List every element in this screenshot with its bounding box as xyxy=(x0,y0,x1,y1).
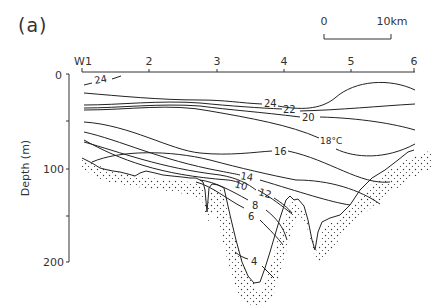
scale-bar xyxy=(324,34,391,39)
axes xyxy=(66,68,415,262)
contour-plot: 24 24 22 20 18°C 16 14 12 10 8 6 4 xyxy=(0,0,438,306)
label-24-surface: 24 xyxy=(93,73,107,86)
isotherm-labels: 24 24 22 20 18°C 16 14 12 10 8 6 4 xyxy=(93,73,342,267)
label-4: 4 xyxy=(251,256,257,267)
label-16: 16 xyxy=(274,146,287,157)
label-24: 24 xyxy=(264,98,277,109)
label-8: 8 xyxy=(252,200,258,211)
temperature-section-figure: (a) 0 10km W1 2 3 4 5 6 0 100 200 Depth … xyxy=(0,0,438,306)
label-22: 22 xyxy=(283,104,296,115)
label-20: 20 xyxy=(302,112,315,123)
label-10: 10 xyxy=(233,178,248,192)
label-6: 6 xyxy=(248,211,254,222)
label-18: 18°C xyxy=(320,136,342,146)
